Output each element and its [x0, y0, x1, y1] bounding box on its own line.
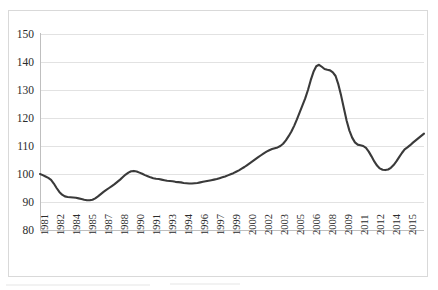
x-tick-label: 2002	[263, 214, 274, 235]
x-tick-label: 1981	[39, 214, 50, 235]
x-tick-label: 2011	[359, 214, 370, 235]
x-tick-label: 1991	[151, 214, 162, 235]
line-chart: 8090100110120130140150 19811982198419851…	[0, 0, 438, 290]
scan-artifacts	[6, 284, 240, 285]
x-tick-label: 1982	[55, 214, 66, 235]
y-tick-label: 140	[17, 56, 35, 68]
x-tick-label: 1999	[231, 214, 242, 235]
y-axis-labels: 8090100110120130140150	[17, 28, 35, 236]
x-tick-label: 2015	[407, 214, 418, 235]
x-tick-label: 2008	[327, 214, 338, 235]
x-tick-label: 2003	[279, 214, 290, 235]
series-line-index	[40, 65, 424, 201]
x-tick-label: 2005	[295, 214, 306, 235]
gridlines	[40, 33, 424, 230]
x-tick-label: 1997	[215, 214, 226, 235]
y-tick-label: 120	[17, 112, 35, 124]
x-tick-label: 2012	[375, 214, 386, 235]
x-tick-label: 1994	[183, 213, 194, 235]
y-tick-label: 80	[23, 224, 35, 236]
x-tick-label: 1993	[167, 214, 178, 235]
y-tick-label: 100	[17, 168, 35, 180]
x-tick-label: 2014	[391, 213, 402, 235]
x-tick-label: 1988	[119, 214, 130, 235]
data-series	[40, 65, 424, 201]
x-axis-labels: 1981198219841985198719881990199119931994…	[39, 213, 418, 235]
y-tick-label: 110	[17, 140, 34, 152]
x-tick-label: 1984	[71, 213, 82, 235]
x-tick-label: 1985	[87, 214, 98, 235]
x-tick-label: 2000	[247, 214, 258, 235]
x-tick-label: 2006	[311, 214, 322, 235]
x-tick-label: 1996	[199, 214, 210, 235]
chart-container: 8090100110120130140150 19811982198419851…	[0, 0, 438, 290]
y-tick-label: 130	[17, 84, 35, 96]
y-tick-label: 90	[23, 196, 35, 208]
y-tick-label: 150	[17, 28, 35, 40]
x-tick-label: 2009	[343, 214, 354, 235]
x-tick-label: 1987	[103, 214, 114, 235]
x-tick-label: 1990	[135, 214, 146, 235]
